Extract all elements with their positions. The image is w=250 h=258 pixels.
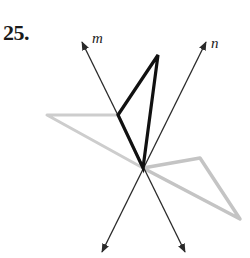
reflected-triangle-left [47,115,143,168]
line-n-label: n [211,35,219,52]
line-m-label: m [92,30,103,47]
reflected-triangle-right [143,158,240,219]
